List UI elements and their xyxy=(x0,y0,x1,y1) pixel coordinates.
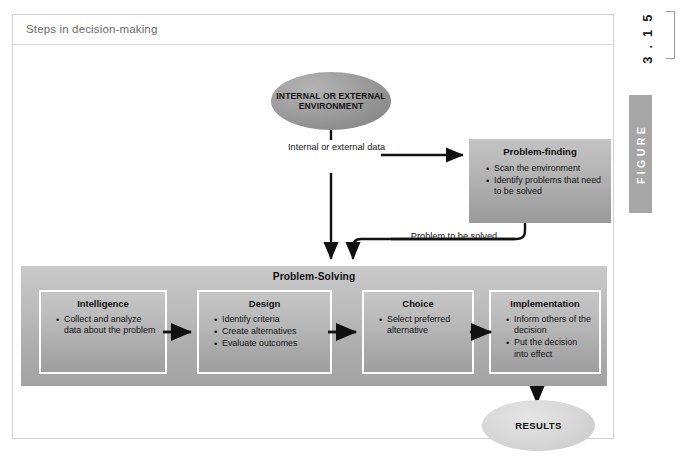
list-item: Put the decision into effect xyxy=(507,337,593,359)
stage-title: Choice xyxy=(370,298,466,309)
problem-edge-label: Problem to be solved xyxy=(392,230,516,242)
list-item: Select preferred alternative xyxy=(380,314,466,336)
stage-title: Intelligence xyxy=(47,298,159,309)
decision-making-diagram: INTERNAL OR EXTERNAL ENVIRONMENT Interna… xyxy=(13,45,613,438)
stage-title: Implementation xyxy=(497,298,593,309)
stage-bullets: Collect and analyze data about the probl… xyxy=(47,314,159,336)
page-title: Steps in decision-making xyxy=(26,23,157,35)
problem-solving-title: Problem-Solving xyxy=(21,271,607,282)
stage-title: Design xyxy=(205,298,324,309)
figure-frame: Steps in decision-making INTERNAL OR E xyxy=(12,14,614,439)
problem-finding-title: Problem-finding xyxy=(477,146,603,157)
list-item: Evaluate outcomes xyxy=(215,338,324,349)
problem-solving-banner: Problem-Solving Intelligence Collect and… xyxy=(21,266,607,386)
data-edge-label: Internal or external data xyxy=(288,141,376,153)
results-node-label: RESULTS xyxy=(515,420,561,431)
environment-node-label: INTERNAL OR EXTERNAL ENVIRONMENT xyxy=(271,91,391,112)
problem-finding-bullets: Scan the environment Identify problems t… xyxy=(477,163,603,198)
stage-implementation: Implementation Inform others of the deci… xyxy=(489,290,601,374)
stage-bullets: Inform others of the decision Put the de… xyxy=(497,314,593,360)
stage-choice: Choice Select preferred alternative xyxy=(362,290,474,374)
stage-bullets: Select preferred alternative xyxy=(370,314,466,336)
stage-bullets: Identify criteria Create alternatives Ev… xyxy=(205,314,324,350)
figure-number-bracket xyxy=(666,11,675,59)
list-item: Scan the environment xyxy=(487,163,603,174)
list-item: Identify problems that need to be solved xyxy=(487,175,603,197)
list-item: Identify criteria xyxy=(215,314,324,325)
list-item: Collect and analyze data about the probl… xyxy=(57,314,159,336)
problem-finding-box: Problem-finding Scan the environment Ide… xyxy=(469,139,611,223)
results-node: RESULTS xyxy=(482,400,595,451)
stage-intelligence: Intelligence Collect and analyze data ab… xyxy=(39,290,167,374)
environment-node: INTERNAL OR EXTERNAL ENVIRONMENT xyxy=(271,72,391,130)
list-item: Inform others of the decision xyxy=(507,314,593,336)
stage-design: Design Identify criteria Create alternat… xyxy=(197,290,332,374)
list-item: Create alternatives xyxy=(215,326,324,337)
